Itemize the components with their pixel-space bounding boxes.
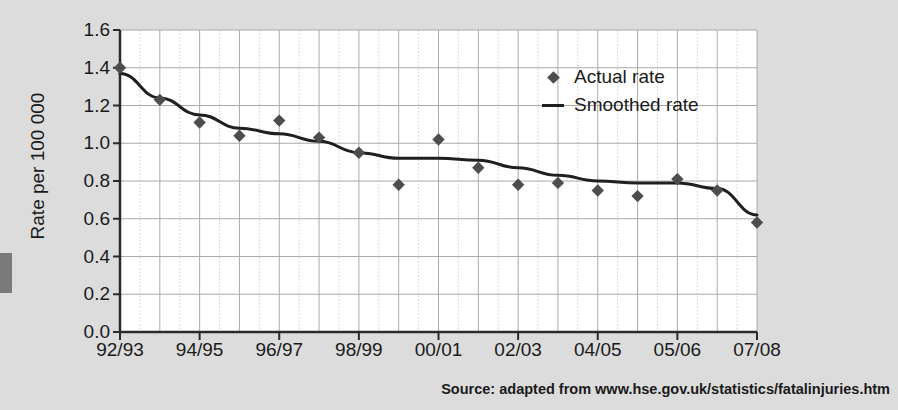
x-tick-label: 07/08 bbox=[733, 339, 781, 361]
x-tick-label: 94/95 bbox=[176, 339, 224, 361]
x-tick-label: 02/03 bbox=[494, 339, 542, 361]
chart-legend: Actual rate Smoothed rate bbox=[536, 64, 699, 120]
y-tick-label: 1.0 bbox=[56, 132, 110, 154]
y-tick-label: 0.6 bbox=[56, 208, 110, 230]
legend-label-smoothed: Smoothed rate bbox=[574, 94, 699, 116]
y-tick-label: 0.2 bbox=[56, 283, 110, 305]
x-axis-ticks: 92/9394/9596/9798/9900/0102/0304/0505/06… bbox=[0, 339, 898, 369]
legend-item-actual: Actual rate bbox=[536, 64, 699, 90]
x-tick-label: 92/93 bbox=[96, 339, 144, 361]
chart-figure: Rate per 100 000 0.00.20.40.60.81.01.21.… bbox=[0, 0, 898, 410]
y-tick-label: 1.2 bbox=[56, 95, 110, 117]
y-axis-label: Rate per 100 000 bbox=[27, 46, 49, 286]
x-tick-label: 00/01 bbox=[415, 339, 463, 361]
diamond-marker-icon bbox=[536, 73, 570, 82]
source-caption: Source: adapted from www.hse.gov.uk/stat… bbox=[0, 381, 890, 397]
x-tick-label: 98/99 bbox=[335, 339, 383, 361]
y-tick-label: 0.8 bbox=[56, 170, 110, 192]
y-tick-label: 1.4 bbox=[56, 57, 110, 79]
line-sample-icon bbox=[536, 104, 570, 107]
x-tick-label: 05/06 bbox=[654, 339, 702, 361]
legend-item-smoothed: Smoothed rate bbox=[536, 92, 699, 118]
legend-label-actual: Actual rate bbox=[574, 66, 665, 88]
y-tick-label: 1.6 bbox=[56, 19, 110, 41]
x-tick-label: 96/97 bbox=[255, 339, 303, 361]
y-tick-label: 0.4 bbox=[56, 246, 110, 268]
x-tick-label: 04/05 bbox=[574, 339, 622, 361]
